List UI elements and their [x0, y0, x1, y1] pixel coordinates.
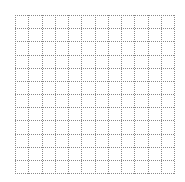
dotted-grid	[15, 15, 175, 174]
grid-lines	[15, 15, 175, 174]
